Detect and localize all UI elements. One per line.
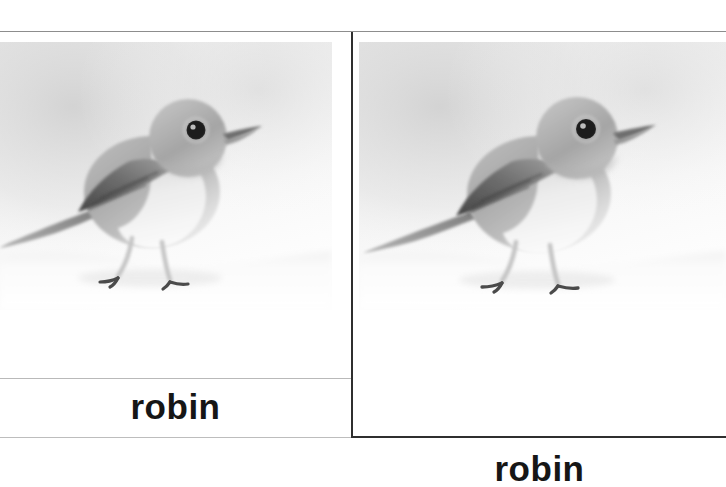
caption-right: robin xyxy=(353,448,726,487)
panel-divider-vertical xyxy=(351,32,353,438)
robin-photo-left-graphic xyxy=(0,42,332,310)
caption-divider-right xyxy=(351,436,726,438)
robin-photo-right xyxy=(359,42,726,310)
robin-photo-left xyxy=(0,42,332,310)
flashcard-right[interactable]: robin xyxy=(353,32,726,487)
robin-photo-right-graphic xyxy=(359,42,726,310)
slide-canvas: robin xyxy=(0,0,726,487)
caption-divider-left xyxy=(0,378,352,379)
bottom-divider-left xyxy=(0,437,352,438)
caption-left: robin xyxy=(0,386,351,428)
